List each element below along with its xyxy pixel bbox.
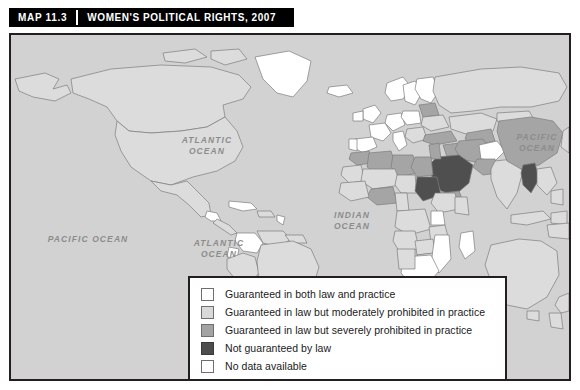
legend-swatch-icon <box>201 306 214 319</box>
legend-item-moderately-prohibited: Guaranteed in law but moderately prohibi… <box>190 303 505 321</box>
legend-item-no-data: No data available <box>190 357 505 375</box>
region-new-zealand-south <box>549 313 563 329</box>
region-philippines <box>551 189 563 205</box>
map-figure: MAP 11.3 WOMEN'S POLITICAL RIGHTS, 2007 … <box>0 0 580 390</box>
map-number-label: MAP 11.3 <box>9 12 67 23</box>
region-new-guinea <box>547 223 569 239</box>
legend-item-guaranteed-both: Guaranteed in both law and practice <box>190 285 505 303</box>
map-frame: .c { stroke:#7d7d7d; stroke-width:0.7; s… <box>9 33 571 381</box>
region-portugal <box>349 139 357 151</box>
legend-item-not-guaranteed: Not guaranteed by law <box>190 339 505 357</box>
region-zambia <box>415 239 435 255</box>
legend-label: Guaranteed in both law and practice <box>225 288 395 300</box>
legend-swatch-icon <box>201 288 214 301</box>
region-namibia-botswana <box>397 249 415 269</box>
region-tasmania <box>527 311 539 321</box>
region-belarus <box>419 103 439 117</box>
map-legend: Guaranteed in both law and practice Guar… <box>188 276 507 381</box>
page-title: WOMEN'S POLITICAL RIGHTS, 2007 <box>87 12 276 23</box>
header-divider <box>76 10 78 25</box>
map-header-bar: MAP 11.3 WOMEN'S POLITICAL RIGHTS, 2007 <box>9 8 294 27</box>
legend-swatch-icon <box>201 360 214 373</box>
region-cameroon <box>395 193 409 211</box>
legend-item-severely-prohibited: Guaranteed in law but severely prohibite… <box>190 321 505 339</box>
region-somalia <box>455 197 469 215</box>
legend-label: Guaranteed in law but moderately prohibi… <box>225 306 485 318</box>
legend-swatch-icon <box>201 324 214 337</box>
legend-label: Guaranteed in law but severely prohibite… <box>225 324 472 336</box>
legend-swatch-icon <box>201 342 214 355</box>
legend-label: Not guaranteed by law <box>225 342 331 354</box>
legend-label: No data available <box>225 360 307 372</box>
region-ireland <box>353 111 363 121</box>
region-kenya <box>431 211 445 225</box>
region-levant <box>429 143 441 159</box>
region-indonesia-2 <box>551 211 567 225</box>
